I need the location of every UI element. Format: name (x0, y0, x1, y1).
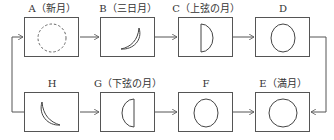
new-moon-icon (25, 18, 80, 58)
box-a-new-moon (24, 17, 79, 57)
waxing-gibbous-moon-icon (256, 18, 311, 58)
label-a: A（新月） (14, 3, 90, 15)
waning-gibbous-moon-icon (179, 93, 234, 133)
label-h: H (14, 78, 90, 90)
label-b: B（三日月） (90, 3, 166, 15)
label-f: F (168, 78, 244, 90)
label-d: D (245, 3, 321, 15)
first-quarter-moon-icon (179, 18, 234, 58)
label-c: C（上弦の月） (168, 3, 244, 15)
last-quarter-moon-icon (101, 93, 156, 133)
box-c-first-quarter (178, 17, 233, 57)
full-moon-icon (256, 93, 311, 133)
box-g-last-quarter (100, 92, 155, 132)
label-g: G（下弦の月） (90, 78, 166, 90)
box-f-waning-gibbous (178, 92, 233, 132)
box-d-gibbous (255, 17, 310, 57)
box-e-full-moon (255, 92, 310, 132)
box-b-crescent (100, 17, 155, 57)
crescent-moon-icon (101, 18, 156, 58)
label-e: E（満月） (245, 78, 321, 90)
waning-crescent-moon-icon (25, 93, 80, 133)
box-h-waning-crescent (24, 92, 79, 132)
